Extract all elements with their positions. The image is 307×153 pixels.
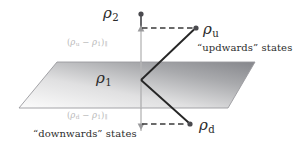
label-updwards-states: “updwards” states xyxy=(197,43,292,53)
diagram-canvas: ρ2 ρ1 ρu ρd (ρu − ρ1)∥ (ρd − ρ1)∥ “updwa… xyxy=(0,0,307,153)
point-marker-rhod xyxy=(187,121,192,126)
label-rho2: ρ2 xyxy=(103,6,119,23)
projection-down-operator: − xyxy=(79,110,92,120)
label-rho1: ρ1 xyxy=(96,71,112,88)
label-rho1-subscript: 1 xyxy=(105,77,111,88)
label-rho2-symbol: ρ xyxy=(103,4,112,22)
label-rho-d-symbol: ρ xyxy=(199,116,208,134)
projection-up-parallel-subscript: ∥ xyxy=(105,40,108,47)
state-plane xyxy=(19,62,255,108)
label-projection-down: (ρd − ρ1)∥ xyxy=(67,111,107,120)
projection-up-symbol1: ρ xyxy=(70,37,75,47)
point-marker-rhou xyxy=(193,25,198,30)
label-rho1-symbol: ρ xyxy=(96,69,105,87)
point-marker-rho2 xyxy=(138,11,143,16)
projection-down-parallel-subscript: ∥ xyxy=(105,113,108,120)
projection-up-close: ) xyxy=(101,37,104,47)
projection-down-close: ) xyxy=(101,110,104,120)
projection-down-symbol1: ρ xyxy=(70,110,75,120)
label-rho-d-subscript: d xyxy=(208,124,215,135)
label-projection-up: (ρu − ρ1)∥ xyxy=(67,38,107,47)
projection-up-operator: − xyxy=(79,37,92,47)
label-rho2-subscript: 2 xyxy=(112,12,118,23)
label-rho-u-symbol: ρ xyxy=(203,20,212,38)
label-rho-d: ρd xyxy=(199,118,215,135)
label-rho-u-subscript: u xyxy=(212,28,219,39)
label-rho-u: ρu xyxy=(203,22,219,39)
label-downwards-states: “downwards” states xyxy=(33,129,137,139)
